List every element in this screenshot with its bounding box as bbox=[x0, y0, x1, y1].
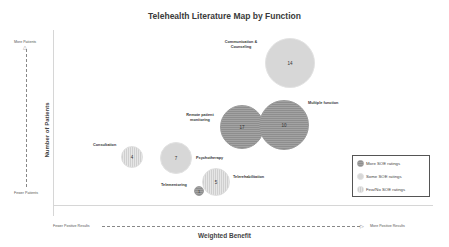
x-axis-high-label: More Positive Results bbox=[370, 224, 405, 228]
legend-swatch-few-icon bbox=[357, 186, 364, 193]
bubble-multiple-function: 10 bbox=[259, 100, 309, 150]
bubble-label-telerehabilitation: Telerehabilitation bbox=[233, 175, 264, 180]
legend-item-more: More SOE ratings bbox=[357, 160, 400, 167]
bubble-value: 10 bbox=[281, 123, 286, 128]
x-axis-line bbox=[53, 205, 433, 206]
bubble-label-telementoring: Telementoring bbox=[161, 183, 187, 188]
bubble-value: 7 bbox=[175, 156, 178, 161]
bubble-psychotherapy: 7 bbox=[160, 142, 192, 174]
y-axis-low-label: Fewer Patients bbox=[14, 191, 38, 195]
y-axis-title: Number of Patients bbox=[44, 102, 50, 157]
chart-title: Telehealth Literature Map by Function bbox=[0, 11, 449, 21]
bubble-label-multiple-function: Multiple function bbox=[308, 101, 338, 106]
legend-swatch-more-icon bbox=[357, 160, 364, 167]
bubble-value: 4 bbox=[131, 155, 134, 160]
x-direction-arrow bbox=[102, 226, 360, 227]
bubble-value: 17 bbox=[239, 125, 244, 130]
legend-item-few: Few/No SOE ratings bbox=[357, 186, 405, 193]
legend-swatch-some-icon bbox=[357, 173, 364, 180]
bubble-telementoring: 1 bbox=[194, 186, 204, 196]
bubble-communication: 14 bbox=[265, 38, 315, 88]
bubble-label-remote-monitoring: Remote patient monitoring bbox=[180, 113, 220, 123]
bubble-label-consultation: Consultation bbox=[93, 143, 116, 148]
bubble-consultation: 4 bbox=[121, 146, 143, 168]
y-axis-line bbox=[53, 30, 54, 216]
bubble-value: 5 bbox=[215, 180, 218, 185]
x-axis-low-label: Fewer Positive Results bbox=[53, 224, 90, 228]
bubble-telerehabilitation: 5 bbox=[202, 168, 230, 196]
legend-item-some: Some SOE ratings bbox=[357, 173, 402, 180]
x-axis-title: Weighted Benefit bbox=[0, 232, 449, 239]
bubble-remote-monitoring: 17 bbox=[220, 105, 264, 149]
bubble-label-psychotherapy: Psychotherapy bbox=[196, 156, 223, 161]
bubble-value: 1 bbox=[198, 189, 200, 194]
bubble-value: 14 bbox=[287, 61, 292, 66]
chart-legend: More SOE ratings Some SOE ratings Few/No… bbox=[352, 155, 430, 197]
y-direction-arrow bbox=[26, 49, 27, 187]
right-arrow-icon: ▷ bbox=[360, 223, 364, 229]
bubble-label-communication: Communication & Counseling bbox=[218, 40, 264, 50]
